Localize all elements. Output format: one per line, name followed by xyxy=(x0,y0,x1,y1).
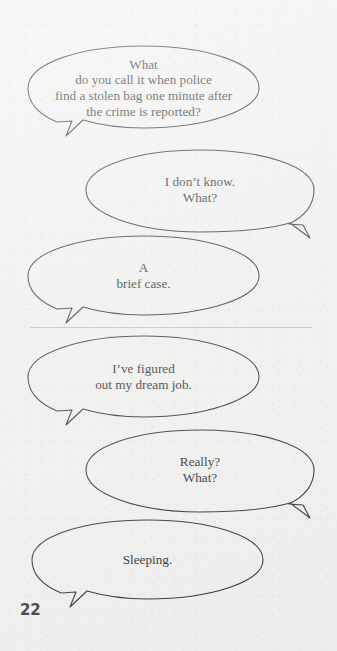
speech-bubble-4-text: I’ve figured out my dream job. xyxy=(26,334,261,420)
speech-bubble-6-text: Sleeping. xyxy=(30,518,265,602)
bubble-line: brief case. xyxy=(116,276,170,292)
bubble-line: the crime is reported? xyxy=(86,104,201,120)
speech-bubble-2-text: I don’t know. What? xyxy=(84,148,316,232)
bubble-line: I’ve figured xyxy=(112,361,175,377)
bubble-line: Really? xyxy=(180,454,220,470)
bubble-line: I don’t know. xyxy=(165,174,235,190)
bubble-line: What? xyxy=(183,190,217,206)
speech-bubble-4: I’ve figured out my dream job. xyxy=(26,334,261,428)
bubble-line: find a stolen bag one minute after xyxy=(55,88,232,104)
bubble-line: What? xyxy=(183,470,217,486)
speech-bubble-2: I don’t know. What? xyxy=(84,148,316,240)
speech-bubble-3-text: A brief case. xyxy=(26,234,261,318)
bubble-line: Sleeping. xyxy=(123,552,172,568)
speech-bubble-1: What do you call it when police find a s… xyxy=(26,44,261,140)
speech-bubble-1-text: What do you call it when police find a s… xyxy=(26,44,261,132)
page-number: 22 xyxy=(20,601,40,619)
comic-page: What do you call it when police find a s… xyxy=(0,0,337,651)
speech-bubble-3: A brief case. xyxy=(26,234,261,326)
bubble-line: A xyxy=(139,260,149,276)
bubble-line: What xyxy=(129,57,158,73)
bubble-line: do you call it when police xyxy=(75,72,212,88)
speech-bubble-5-text: Really? What? xyxy=(84,428,316,512)
bubble-line: out my dream job. xyxy=(95,377,192,393)
speech-bubble-6: Sleeping. xyxy=(30,518,265,610)
panel-divider xyxy=(30,327,312,328)
speech-bubble-5: Really? What? xyxy=(84,428,316,520)
